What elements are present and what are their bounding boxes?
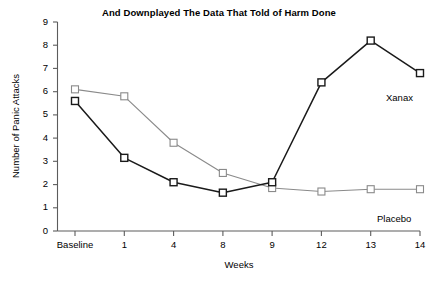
y-tick-label: 3 xyxy=(43,155,48,166)
data-point-placebo-8 xyxy=(219,169,226,176)
series-line-placebo xyxy=(75,89,420,191)
data-point-xanax-1 xyxy=(121,154,128,161)
x-axis-title: Weeks xyxy=(225,259,254,270)
y-tick-label: 6 xyxy=(43,85,48,96)
x-tick-labels: Baseline 1 4 8 9 12 13 14 xyxy=(57,239,426,250)
data-point-xanax-4 xyxy=(170,179,177,186)
y-tick-label: 9 xyxy=(43,16,48,27)
data-point-placebo-Baseline xyxy=(72,86,79,93)
y-tick-label: 7 xyxy=(43,62,48,73)
y-tick-label: 2 xyxy=(43,178,48,189)
x-tick-marks xyxy=(75,231,420,236)
y-tick-marks xyxy=(53,22,58,231)
x-tick-label: 14 xyxy=(415,239,426,250)
y-tick-label: 8 xyxy=(43,39,48,50)
data-point-placebo-14 xyxy=(417,186,424,193)
data-point-placebo-4 xyxy=(170,139,177,146)
series-layer xyxy=(72,37,424,196)
x-tick-label: 9 xyxy=(269,239,274,250)
y-tick-label: 1 xyxy=(43,201,48,212)
x-tick-label: 1 xyxy=(122,239,127,250)
panic-attacks-line-chart: And Downplayed The Data That Told of Har… xyxy=(0,0,438,290)
data-point-xanax-9 xyxy=(269,179,276,186)
data-point-xanax-14 xyxy=(417,70,424,77)
y-tick-label: 4 xyxy=(43,132,48,143)
y-tick-label: 5 xyxy=(43,108,48,119)
x-tick-label: 13 xyxy=(365,239,376,250)
y-tick-label: 0 xyxy=(43,225,48,236)
series-label-placebo: Placebo xyxy=(377,213,411,224)
data-point-xanax-12 xyxy=(318,79,325,86)
series-label-xanax: Xanax xyxy=(386,92,413,103)
x-tick-label: 12 xyxy=(316,239,327,250)
data-point-placebo-1 xyxy=(121,93,128,100)
data-point-xanax-Baseline xyxy=(72,97,79,104)
y-tick-labels: 0 1 2 3 4 5 6 7 8 9 xyxy=(43,16,48,236)
x-tick-label: Baseline xyxy=(57,239,93,250)
data-point-xanax-8 xyxy=(219,189,226,196)
plot-area: 0 1 2 3 4 5 6 7 8 9 Baseline 1 4 8 xyxy=(0,0,438,290)
x-tick-label: 8 xyxy=(220,239,225,250)
y-axis-title: Number of Panic Attacks xyxy=(10,74,21,178)
data-point-placebo-12 xyxy=(318,188,325,195)
x-tick-label: 4 xyxy=(171,239,176,250)
data-point-xanax-13 xyxy=(367,37,374,44)
data-point-placebo-13 xyxy=(367,186,374,193)
series-line-xanax xyxy=(75,41,420,193)
